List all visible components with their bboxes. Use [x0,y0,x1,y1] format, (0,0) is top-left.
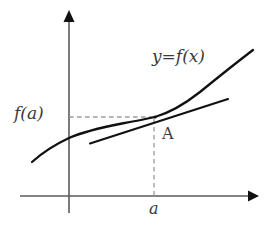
x-axis [20,191,259,202]
function-curve [32,50,253,162]
tangent-line [90,99,228,144]
y-axis [64,10,75,213]
tangent-point-marker [153,115,156,118]
y-axis-arrowhead-icon [64,10,75,22]
function-label: y=f(x) [152,48,205,65]
point-label-a: A [162,126,174,142]
x-axis-arrowhead-icon [248,191,259,202]
y-axis-value-label: f(a) [14,105,44,122]
x-axis-value-label: a [149,201,159,217]
tangent-line-figure: y=f(x) f(a) a A [0,0,270,228]
